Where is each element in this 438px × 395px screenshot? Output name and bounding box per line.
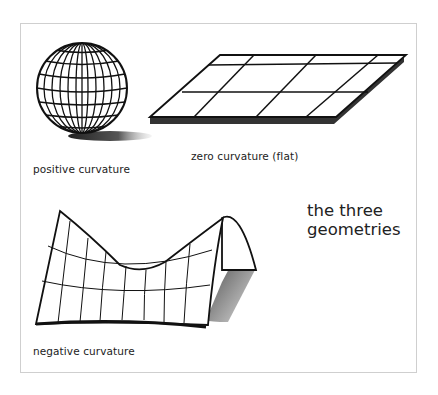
saddle-icon — [36, 211, 256, 327]
plane-icon — [150, 55, 406, 124]
title-line-1: the three — [307, 201, 401, 220]
zero-curvature-label: zero curvature (flat) — [191, 150, 298, 162]
title-line-2: geometries — [307, 220, 401, 239]
figure-title: the three geometries — [307, 201, 401, 239]
negative-curvature-label: negative curvature — [33, 345, 135, 357]
geometry-illustrations — [0, 0, 438, 395]
positive-curvature-label: positive curvature — [33, 163, 130, 175]
sphere-icon — [37, 43, 152, 141]
